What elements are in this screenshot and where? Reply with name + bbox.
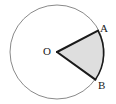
- label-center-o: O: [43, 46, 51, 57]
- label-point-b: B: [98, 80, 105, 91]
- shaded-sector: [57, 31, 104, 80]
- label-point-a: A: [100, 23, 108, 34]
- geometry-figure: O A B: [0, 0, 116, 104]
